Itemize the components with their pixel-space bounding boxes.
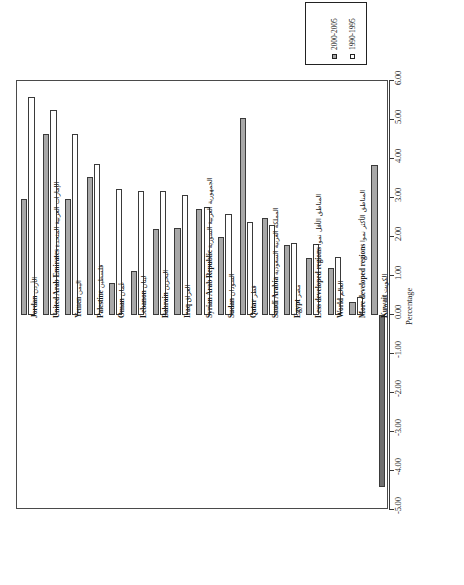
value-axis-title: Percentage [404,288,414,325]
axis-tick-label: 3.00 [393,188,403,202]
axis-tick-label: 2.00 [393,227,403,241]
chart-plot-area [16,80,388,509]
legend-entries: 2000-2005 1990-1995 [306,3,368,66]
axis-tick-label: 0.00 [393,305,403,319]
bar-kuwait-2000-2005 [371,165,377,315]
legend-label-2000-2005: 2000-2005 [330,18,339,50]
axis-tick-label: -3.00 [393,419,403,436]
legend-swatch-icon-2000-2005 [332,54,337,59]
axis-tick-label: 5.00 [393,110,403,124]
bar-group [17,81,387,510]
axis-tick-label: 4.00 [393,149,403,163]
axis-tick-label: -1.00 [393,341,403,358]
axis-tick-label: -5.00 [393,497,403,514]
axis-tick-label: 6.00 [393,71,403,85]
chart-legend: 2000-2005 1990-1995 [305,2,367,65]
legend-entry-2000-2005: 2000-2005 [330,18,339,59]
axis-tick-label: -2.00 [393,380,403,397]
bars-layer [17,81,387,508]
axis-tick-label: -4.00 [393,458,403,475]
legend-swatch-icon-1990-1995 [350,54,355,59]
value-axis-line [389,80,390,509]
legend-entry-1990-1995: 1990-1995 [348,18,357,59]
bar-kuwait-1990-1995 [379,315,385,487]
legend-label-1990-1995: 1990-1995 [348,18,357,50]
axis-tick-label: 1.00 [393,266,403,280]
